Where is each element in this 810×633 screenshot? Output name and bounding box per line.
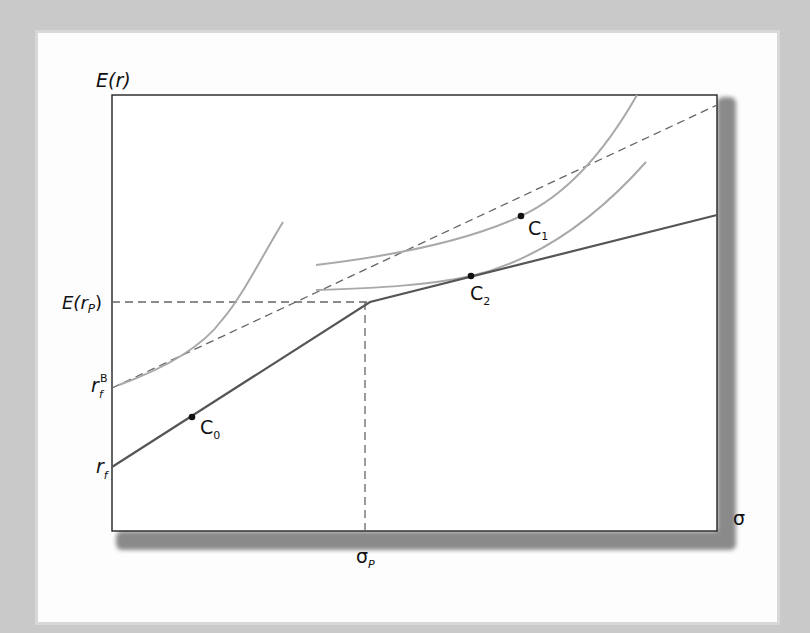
tick-label-rf-borrowing: rfB [91, 372, 108, 401]
plot-frame [112, 95, 717, 531]
tick-label-e-rp: E(rP) [62, 292, 102, 316]
y-axis-label: E(r) [96, 69, 131, 91]
tick-label-rf: rf [96, 455, 110, 482]
point-c1 [518, 213, 525, 220]
cal-diagram: E(r) σ E(rP) rfB rf σP C0 C1 C2 [0, 0, 810, 633]
point-c0 [189, 414, 196, 421]
sigma-label: σ [733, 507, 745, 529]
point-c2 [468, 273, 475, 280]
